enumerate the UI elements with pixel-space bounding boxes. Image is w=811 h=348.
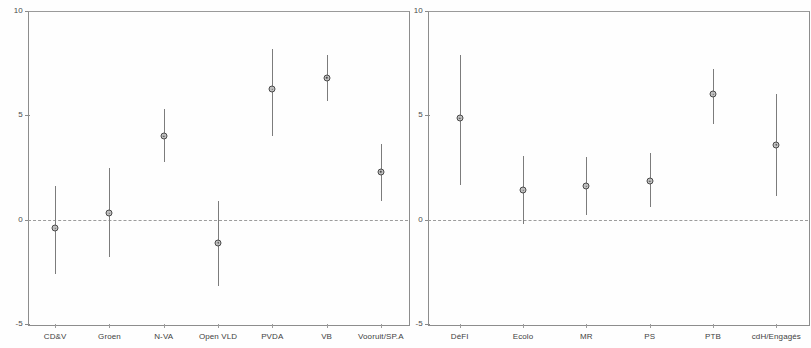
x-axis-tick xyxy=(55,324,56,328)
point-estimate-marker xyxy=(646,178,653,185)
point-estimate-marker xyxy=(773,141,780,148)
panel-flemish-parties: 1050-5 CD&VGroenN-VAOpen VLDPVDAVBVoorui… xyxy=(0,0,410,348)
x-axis-category-label: PS xyxy=(644,332,655,341)
y-axis-tick-label: 5 xyxy=(418,111,423,119)
y-axis-tick-label: 0 xyxy=(18,216,23,224)
point-estimate-marker xyxy=(323,74,330,81)
x-axis-tick xyxy=(164,324,165,328)
coefficient-plot-figure: 1050-5 CD&VGroenN-VAOpen VLDPVDAVBVoorui… xyxy=(0,0,811,348)
x-axis-tick xyxy=(460,324,461,328)
point-estimate-marker xyxy=(215,239,222,246)
x-axis-category-label: Ecolo xyxy=(513,332,534,341)
x-axis-tick xyxy=(218,324,219,328)
x-axis-tick xyxy=(327,324,328,328)
point-estimate-marker xyxy=(106,210,113,217)
zero-reference-line-right xyxy=(428,220,808,221)
y-axis-tick-label: 10 xyxy=(414,7,423,15)
plot-area-left xyxy=(28,11,410,326)
x-axis-category-label: VB xyxy=(321,332,332,341)
x-axis-tick xyxy=(381,324,382,328)
point-estimate-marker xyxy=(520,187,527,194)
x-axis-category-label: CD&V xyxy=(44,332,67,341)
x-axis-category-label: MR xyxy=(580,332,593,341)
x-axis-category-label: Groen xyxy=(98,332,121,341)
y-axis-tick-label: 5 xyxy=(18,111,23,119)
point-estimate-marker xyxy=(160,133,167,140)
x-axis-category-label: N-VA xyxy=(154,332,173,341)
point-estimate-marker xyxy=(377,168,384,175)
x-axis-tick xyxy=(650,324,651,328)
x-axis-category-label: PVDA xyxy=(261,332,283,341)
x-axis-tick xyxy=(586,324,587,328)
panel-francophone-parties: 1050-5 DéFIEcoloMRPSPTBcdH/Engagés xyxy=(400,0,811,348)
y-axis-tick-label: 10 xyxy=(14,7,23,15)
point-estimate-marker xyxy=(710,91,717,98)
x-axis-tick xyxy=(109,324,110,328)
x-axis-tick xyxy=(713,324,714,328)
point-estimate-marker xyxy=(583,183,590,190)
x-axis-category-label: DéFI xyxy=(451,332,469,341)
x-axis-category-label: PTB xyxy=(705,332,721,341)
x-axis-category-label: Open VLD xyxy=(199,332,237,341)
point-estimate-marker xyxy=(456,115,463,122)
point-estimate-marker xyxy=(269,86,276,93)
y-axis-tick-label: 0 xyxy=(418,216,423,224)
x-axis-category-label: Vooruit/SP.A xyxy=(358,332,404,341)
x-axis-category-label: cdH/Engagés xyxy=(752,332,801,341)
x-axis-tick xyxy=(776,324,777,328)
point-estimate-marker xyxy=(52,225,59,232)
x-axis-tick xyxy=(272,324,273,328)
plot-area-right xyxy=(428,11,810,326)
y-axis-tick-label: -5 xyxy=(415,320,423,328)
y-axis-left: 1050-5 xyxy=(0,0,30,348)
x-axis-tick xyxy=(523,324,524,328)
y-axis-right: 1050-5 xyxy=(400,0,430,348)
y-axis-tick-label: -5 xyxy=(15,320,23,328)
